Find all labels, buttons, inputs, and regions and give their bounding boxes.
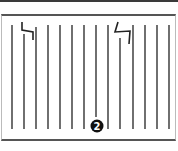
callout-marker: 2 bbox=[91, 120, 104, 133]
break-mark-icon bbox=[115, 22, 130, 44]
callout-number: 2 bbox=[94, 121, 101, 132]
break-marks bbox=[22, 22, 130, 44]
vertical-lines bbox=[12, 25, 169, 129]
line-diagram: 2 bbox=[0, 0, 178, 151]
